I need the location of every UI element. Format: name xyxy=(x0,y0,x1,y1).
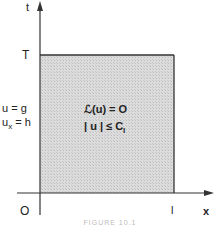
x-axis-arrow-icon xyxy=(204,190,214,196)
region-equation: ℒ(u) = O xyxy=(84,104,127,115)
x-tick-label: l xyxy=(171,205,173,216)
origin-label: O xyxy=(20,205,29,217)
x-axis-label: x xyxy=(203,206,209,217)
region-constraint: | u | ≤ Cl xyxy=(84,121,125,135)
boundary-condition-u: u = g xyxy=(2,103,27,114)
t-axis-arrow-icon xyxy=(37,1,43,11)
t-tick-label: T xyxy=(22,49,29,61)
figure-caption: FIGURE 10.1 xyxy=(72,219,148,227)
t-axis-label: t xyxy=(26,2,29,13)
boundary-condition-ux: ux = h xyxy=(2,117,31,131)
